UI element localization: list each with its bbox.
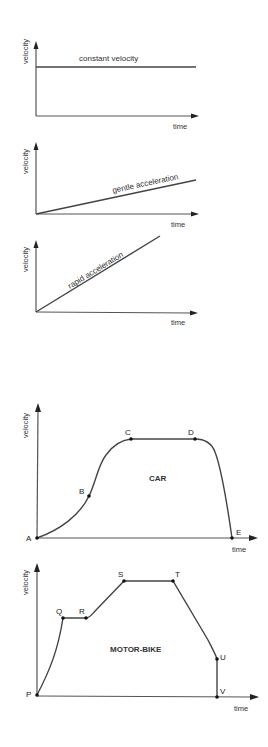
velocity-time-diagrams: velocity time constant velocity velocity… xyxy=(0,0,268,747)
y-axis-label: velocity xyxy=(21,149,30,174)
x-axis xyxy=(37,696,252,697)
label-s: S xyxy=(118,570,123,579)
y-axis-arrow-icon xyxy=(34,41,39,49)
point-q xyxy=(61,616,65,620)
label-c: C xyxy=(125,428,131,437)
label-t: T xyxy=(175,570,180,579)
label-e: E xyxy=(236,528,241,537)
y-axis-arrow-icon xyxy=(34,563,40,572)
y-axis xyxy=(37,409,38,538)
x-axis-arrow-icon xyxy=(191,114,199,119)
point-v xyxy=(215,695,219,699)
constant-velocity-label: constant velocity xyxy=(79,54,138,63)
label-r: R xyxy=(79,607,85,616)
x-axis-arrow-icon xyxy=(249,535,258,541)
point-d xyxy=(193,437,197,441)
point-u xyxy=(215,657,219,661)
y-axis-label: velocity xyxy=(21,39,30,64)
point-c xyxy=(129,437,133,441)
y-axis-arrow-icon xyxy=(35,403,41,412)
car-velocity-curve xyxy=(37,439,232,538)
chart-gentle-acceleration: velocity time gentle acceleration xyxy=(21,142,199,229)
motor-bike-title: MOTOR-BIKE xyxy=(110,645,162,654)
label-a: A xyxy=(26,534,32,543)
y-axis-arrow-icon xyxy=(34,142,39,150)
label-p: P xyxy=(26,690,31,699)
point-r xyxy=(84,616,88,620)
point-a xyxy=(35,536,39,540)
label-u: U xyxy=(220,653,226,662)
label-v: V xyxy=(220,687,226,696)
x-axis-label: time xyxy=(171,220,185,229)
chart-car: velocity time A B C D E CAR xyxy=(21,403,258,554)
rapid-acceleration-label: rapid acceleration xyxy=(66,250,125,291)
x-axis-label: time xyxy=(234,704,248,713)
point-s xyxy=(122,579,126,583)
y-axis-label: velocity xyxy=(21,247,30,272)
chart-rapid-acceleration: velocity time rapid acceleration xyxy=(21,236,198,327)
point-p xyxy=(35,693,39,697)
x-axis-label: time xyxy=(232,545,246,554)
motor-bike-velocity-curve xyxy=(37,581,217,697)
x-axis-arrow-icon xyxy=(190,311,198,316)
label-b: B xyxy=(79,487,84,496)
y-axis-label: velocity xyxy=(21,413,30,438)
point-b xyxy=(87,494,91,498)
x-axis-label: time xyxy=(171,318,185,327)
chart-motor-bike: velocity time P Q R S T U V MOTOR-BIKE xyxy=(21,563,259,713)
point-t xyxy=(171,579,175,583)
x-axis-arrow-icon xyxy=(191,212,199,217)
x-axis xyxy=(36,312,192,313)
x-axis-arrow-icon xyxy=(250,694,259,700)
car-title: CAR xyxy=(149,474,167,483)
y-axis-label: velocity xyxy=(21,570,30,595)
point-e xyxy=(230,536,234,540)
y-axis-arrow-icon xyxy=(34,240,39,248)
label-d: D xyxy=(188,428,194,437)
chart-constant-velocity: velocity time constant velocity xyxy=(21,39,199,131)
label-q: Q xyxy=(56,607,62,616)
gentle-acceleration-label: gentle acceleration xyxy=(112,172,180,195)
x-axis-label: time xyxy=(173,122,187,131)
